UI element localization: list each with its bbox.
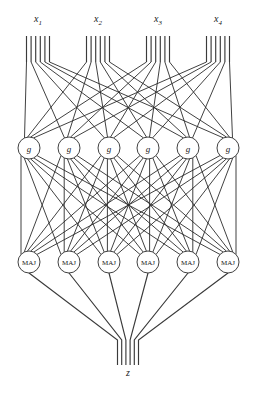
g-to-maj-wire xyxy=(71,159,144,252)
input-label: x2 xyxy=(93,13,102,27)
g-gate[interactable]: g xyxy=(98,137,120,159)
g-to-maj-wire xyxy=(71,158,144,251)
circuit-svg: gggggg MAJMAJMAJMAJMAJMAJ x1x2x3x4z xyxy=(0,0,256,395)
maj-gate-label: MAJ xyxy=(221,259,235,267)
g-to-maj-wire xyxy=(114,159,187,252)
g-gate-label: g xyxy=(186,144,191,154)
input-label: x4 xyxy=(213,13,222,27)
input-label-subscript: 4 xyxy=(218,19,222,27)
g-gate-label: g xyxy=(27,144,32,154)
g-gate-nodes: gggggg xyxy=(18,137,239,159)
input-label: x3 xyxy=(153,13,162,27)
g-gate[interactable]: g xyxy=(18,137,40,159)
input-to-g-wire xyxy=(68,62,92,137)
maj-gate-label: MAJ xyxy=(102,259,116,267)
maj-gate-label: MAJ xyxy=(141,259,155,267)
g-to-maj-wire xyxy=(117,159,226,255)
maj-to-output-wire xyxy=(29,273,118,365)
input-to-g-wire xyxy=(74,62,212,138)
input-to-g-wire xyxy=(25,62,27,138)
maj-to-output-wire xyxy=(134,273,188,365)
maj-gate[interactable]: MAJ xyxy=(137,251,159,273)
maj-gate[interactable]: MAJ xyxy=(98,251,120,273)
input-label-subscript: 2 xyxy=(98,19,102,27)
maj-to-output-wires xyxy=(29,273,228,365)
input-label: x1 xyxy=(33,13,42,27)
g-to-maj-wire xyxy=(114,158,187,251)
input-label-subscript: 1 xyxy=(38,19,42,27)
input-to-g-wire xyxy=(193,62,225,138)
maj-gate[interactable]: MAJ xyxy=(58,251,80,273)
maj-gate-nodes: MAJMAJMAJMAJMAJMAJ xyxy=(18,251,239,273)
g-gate[interactable]: g xyxy=(177,137,199,159)
g-to-maj-wires xyxy=(21,156,236,255)
maj-gate[interactable]: MAJ xyxy=(177,251,199,273)
g-gate[interactable]: g xyxy=(58,137,80,159)
g-to-maj-wire xyxy=(31,156,140,252)
input-bus-group xyxy=(27,36,230,62)
g-gate-label: g xyxy=(107,144,112,154)
g-gate-label: g xyxy=(67,144,72,154)
input-to-g-wire xyxy=(71,62,152,137)
input-to-g-wires xyxy=(25,62,233,138)
maj-gate-label: MAJ xyxy=(22,259,36,267)
g-gate[interactable]: g xyxy=(217,137,239,159)
output-label: z xyxy=(125,367,130,378)
maj-gate[interactable]: MAJ xyxy=(217,251,239,273)
maj-to-output-wire xyxy=(139,273,229,365)
input-label-subscript: 3 xyxy=(157,19,162,27)
g-gate-label: g xyxy=(226,144,231,154)
g-gate-label: g xyxy=(146,144,151,154)
input-to-g-wire xyxy=(230,62,233,138)
maj-to-output-wire xyxy=(69,273,122,365)
maj-gate-label: MAJ xyxy=(62,259,76,267)
input-to-g-wire xyxy=(96,62,108,137)
g-gate[interactable]: g xyxy=(137,137,159,159)
input-to-g-wire xyxy=(34,62,207,138)
circuit-diagram: gggggg MAJMAJMAJMAJMAJMAJ x1x2x3x4z xyxy=(0,0,256,395)
maj-gate[interactable]: MAJ xyxy=(18,251,40,273)
maj-gate-label: MAJ xyxy=(181,259,195,267)
input-to-g-wire xyxy=(150,62,161,137)
